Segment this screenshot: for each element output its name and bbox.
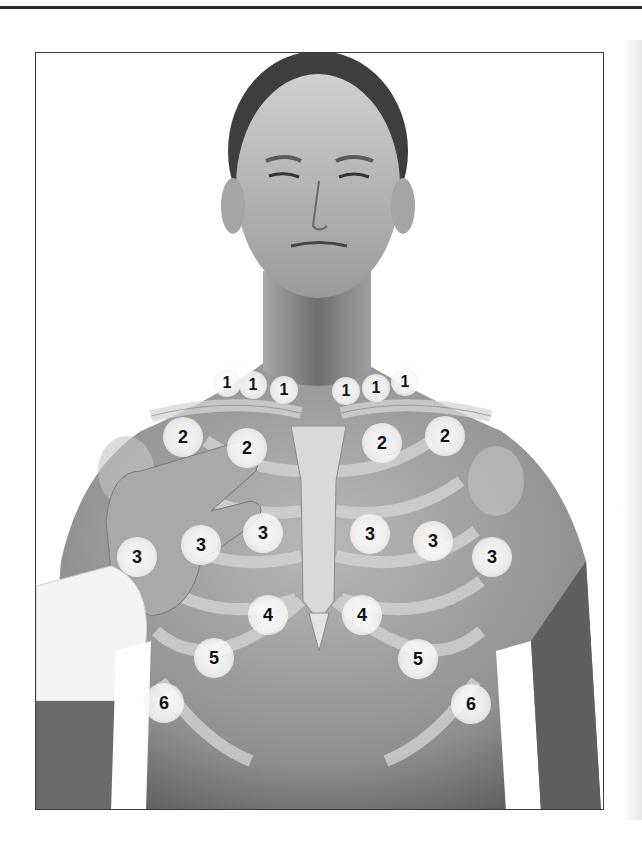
- point-marker-1: 1: [362, 374, 390, 402]
- point-marker-1: 1: [270, 376, 298, 404]
- point-marker-3: 3: [243, 513, 283, 553]
- point-marker-2: 2: [227, 428, 267, 468]
- marker-layer: 1111112222333333445566: [0, 0, 642, 849]
- point-marker-1: 1: [213, 369, 241, 397]
- point-marker-4: 4: [342, 595, 382, 635]
- point-marker-3: 3: [472, 537, 512, 577]
- point-marker-5: 5: [398, 639, 438, 679]
- point-marker-4: 4: [248, 595, 288, 635]
- point-marker-3: 3: [413, 521, 453, 561]
- point-marker-5: 5: [194, 638, 234, 678]
- point-marker-2: 2: [163, 417, 203, 457]
- point-marker-1: 1: [239, 371, 267, 399]
- point-marker-6: 6: [144, 683, 184, 723]
- point-marker-1: 1: [391, 368, 419, 396]
- point-marker-2: 2: [425, 416, 465, 456]
- point-marker-3: 3: [117, 537, 157, 577]
- point-marker-2: 2: [362, 423, 402, 463]
- point-marker-1: 1: [332, 377, 360, 405]
- point-marker-3: 3: [350, 514, 390, 554]
- point-marker-6: 6: [451, 684, 491, 724]
- point-marker-3: 3: [181, 525, 221, 565]
